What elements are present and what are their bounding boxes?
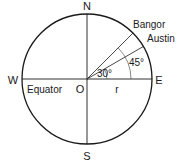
- label-radius: r: [115, 84, 119, 95]
- label-south: S: [83, 150, 90, 162]
- label-origin: O: [76, 83, 85, 95]
- label-west: W: [8, 74, 19, 86]
- earth-cross-section-diagram: N S W E O Equator r Bangor Austin 30° 45…: [0, 0, 181, 164]
- label-north: N: [83, 0, 91, 12]
- label-angle-45: 45°: [129, 57, 144, 68]
- label-austin: Austin: [147, 33, 175, 44]
- label-angle-30: 30°: [97, 68, 112, 79]
- label-equator: Equator: [27, 84, 63, 95]
- label-bangor: Bangor: [133, 19, 166, 30]
- label-east: E: [155, 74, 162, 86]
